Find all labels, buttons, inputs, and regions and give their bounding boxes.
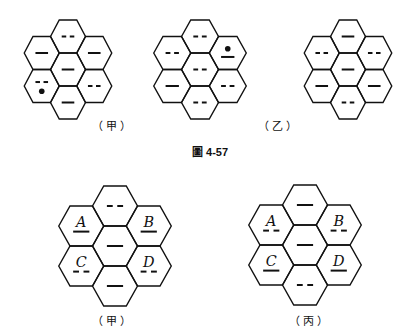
cell-letter: D <box>332 253 345 269</box>
figure-label: （乙） <box>258 121 300 133</box>
hex-cell-lower-left: C <box>249 245 294 285</box>
hex-figure-top-2 <box>154 20 247 119</box>
hex-cell-upper-left <box>154 37 191 70</box>
hex-cell-center <box>93 226 138 266</box>
hex-cell-center <box>182 53 219 86</box>
hex-cell-upper-left <box>304 37 339 70</box>
hex-cell-bottom <box>283 265 328 305</box>
hex-cell-upper-right <box>357 37 392 70</box>
cell-letter: B <box>332 213 344 229</box>
cell-letter: B <box>142 214 154 230</box>
hex-cell-lower-right <box>357 70 392 103</box>
cell-letter: A <box>264 213 276 229</box>
dot-marker <box>39 88 45 94</box>
hex-cell-upper-left: A <box>249 205 294 245</box>
hex-cell-center <box>331 53 366 86</box>
hex-cell-bottom <box>51 86 86 119</box>
cell-letter: D <box>142 254 155 270</box>
hex-cell-lower-left <box>154 70 191 103</box>
hexagon-diagram-canvas: ACBDACBD <box>0 0 418 329</box>
hex-cell-lower-left <box>304 70 339 103</box>
figure-label: （丙） <box>289 316 331 328</box>
figure-label: （甲） <box>92 316 134 328</box>
hex-cell-bottom <box>182 86 219 119</box>
hex-cell-upper-left <box>24 37 59 70</box>
hex-cell-top <box>182 20 219 53</box>
hex-cell-bottom <box>331 86 366 119</box>
dot-marker <box>225 46 231 52</box>
cell-letter: C <box>266 253 277 269</box>
hex-cell-lower-right: D <box>126 246 171 286</box>
hex-cell-lower-left: C <box>59 246 104 286</box>
hex-figure-top-3 <box>304 20 392 119</box>
cell-letter: C <box>76 254 87 270</box>
cell-letter: A <box>74 214 86 230</box>
hex-cell-center <box>283 225 328 265</box>
hex-cell-upper-right: B <box>316 205 361 245</box>
hex-cell-lower-left <box>24 70 59 103</box>
hex-cell-lower-right <box>77 70 112 103</box>
hex-cell-top <box>93 186 138 226</box>
hex-cell-upper-right: B <box>126 206 171 246</box>
hex-figure-bottom-1: ACBD <box>59 186 172 306</box>
figure-caption: 圖 4-57 <box>192 146 228 158</box>
hex-cell-top <box>331 20 366 53</box>
hex-cell-upper-right <box>77 37 112 70</box>
hex-cell-top <box>283 185 328 225</box>
hex-cell-top <box>51 20 86 53</box>
hex-cell-lower-right <box>209 70 246 103</box>
hex-figure-top-1 <box>24 20 112 119</box>
hex-cell-upper-right <box>209 37 246 70</box>
hex-figure-bottom-2: ACBD <box>249 185 362 305</box>
hex-cell-upper-left: A <box>59 206 104 246</box>
hex-cell-center <box>51 53 86 86</box>
figure-label: （甲） <box>92 121 134 133</box>
hex-cell-lower-right: D <box>316 245 361 285</box>
hex-cell-bottom <box>93 266 138 306</box>
